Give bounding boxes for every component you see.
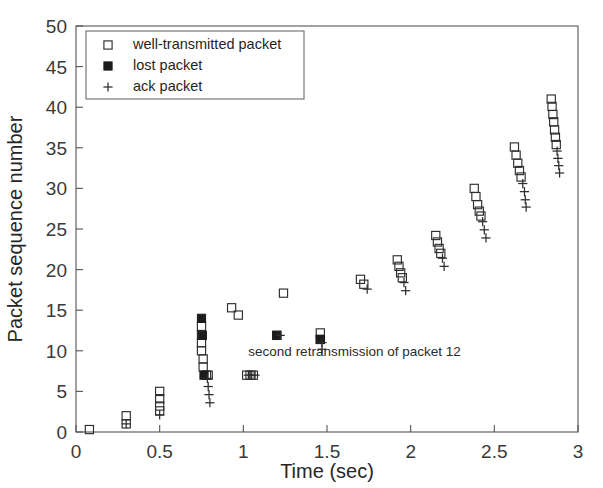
marker-plus xyxy=(440,262,449,271)
marker-plus xyxy=(481,233,490,242)
marker-plus xyxy=(555,168,564,177)
x-tick-label: 0.5 xyxy=(146,441,172,462)
marker-plus xyxy=(363,284,372,293)
marker-plus xyxy=(122,419,131,428)
marker-plus xyxy=(520,187,529,196)
y-tick-label: 0 xyxy=(56,422,67,443)
legend-item-label: well-transmitted packet xyxy=(132,36,281,52)
marker-plus xyxy=(204,382,213,391)
chart-legend: well-transmitted packetlost packetack pa… xyxy=(86,31,304,99)
marker-plus xyxy=(521,195,530,204)
y-tick-label: 40 xyxy=(46,97,67,118)
marker-plus xyxy=(553,154,562,163)
chart-annotation: second retransmission of packet 12 xyxy=(248,344,460,359)
marker-plus xyxy=(518,179,527,188)
y-tick-label: 35 xyxy=(46,138,67,159)
marker-plus xyxy=(554,161,563,170)
marker-plus xyxy=(522,202,531,211)
marker-plus xyxy=(204,390,213,399)
legend-item-label: ack packet xyxy=(133,78,202,94)
x-axis-title: Time (sec) xyxy=(280,460,374,482)
y-tick-label: 45 xyxy=(46,57,67,78)
x-tick-label: 1 xyxy=(238,441,249,462)
marker-plus xyxy=(478,217,487,226)
x-tick-label: 2.5 xyxy=(481,441,507,462)
marker-open-square xyxy=(356,275,364,283)
x-tick-label: 1.5 xyxy=(314,441,340,462)
marker-open-square xyxy=(199,355,207,363)
marker-open-square xyxy=(122,412,130,420)
y-tick-label: 50 xyxy=(46,16,67,37)
y-axis-title: Packet sequence number xyxy=(4,115,26,342)
y-tick-label: 10 xyxy=(46,341,67,362)
marker-plus xyxy=(401,286,410,295)
marker-open-square xyxy=(510,143,518,151)
annotation-layer: second retransmission of packet 12 xyxy=(248,344,460,359)
marker-open-square xyxy=(472,192,480,200)
marker-filled-square xyxy=(197,314,205,322)
marker-open-square xyxy=(197,322,205,330)
y-tick-label: 20 xyxy=(46,260,67,281)
marker-open-square xyxy=(279,289,287,297)
marker-filled-square xyxy=(198,331,206,339)
marker-open-square xyxy=(512,151,520,159)
marker-open-square xyxy=(470,184,478,192)
marker-open-square xyxy=(197,347,205,355)
packet-sequence-scatter-chart: 05101520253035404550 00.511.522.53 Time … xyxy=(0,0,603,488)
y-tick-label: 30 xyxy=(46,178,67,199)
figure-container: 05101520253035404550 00.511.522.53 Time … xyxy=(0,0,603,488)
x-tick-label: 3 xyxy=(573,441,584,462)
series-plus xyxy=(122,146,565,428)
y-axis-ticks: 05101520253035404550 xyxy=(46,16,83,443)
marker-plus xyxy=(205,398,214,407)
marker-plus xyxy=(438,254,447,263)
x-axis-ticks: 00.511.522.53 xyxy=(71,425,584,462)
marker-plus xyxy=(480,225,489,234)
marker-filled-square xyxy=(104,62,112,70)
marker-plus xyxy=(155,410,164,419)
y-tick-label: 15 xyxy=(46,300,67,321)
x-tick-label: 0 xyxy=(71,441,82,462)
series-open-square xyxy=(85,95,560,434)
y-tick-label: 25 xyxy=(46,219,67,240)
data-points-layer xyxy=(85,95,564,434)
y-tick-label: 5 xyxy=(56,381,67,402)
legend-item-label: lost packet xyxy=(133,57,202,73)
marker-open-square xyxy=(199,363,207,371)
marker-plus xyxy=(399,278,408,287)
x-tick-label: 2 xyxy=(405,441,416,462)
